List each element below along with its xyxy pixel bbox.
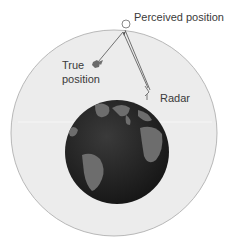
perceived-position-label: Perceived position <box>134 11 224 24</box>
perceived-position-marker <box>122 20 130 28</box>
true-position-label-line1: True <box>62 59 84 72</box>
earth-globe <box>65 100 169 204</box>
true-position-label-line2: position <box>62 73 100 86</box>
radar-diagram <box>0 0 229 246</box>
radar-label: Radar <box>160 92 190 105</box>
